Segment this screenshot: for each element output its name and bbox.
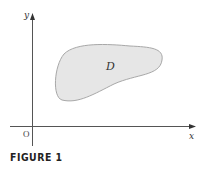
origin-label: O <box>23 129 30 139</box>
y-axis-arrow-icon <box>30 13 35 20</box>
figure-caption: FIGURE 1 <box>10 151 63 164</box>
region-label: D <box>105 60 115 73</box>
figure-diagram: D y x O <box>0 0 209 170</box>
x-axis-label: x <box>189 131 194 141</box>
y-axis-label: y <box>23 10 30 20</box>
x-axis-arrow-icon <box>189 124 196 129</box>
